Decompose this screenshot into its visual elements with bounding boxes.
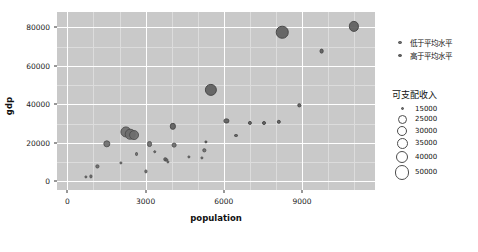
size-legend-item[interactable]: 50000 xyxy=(392,165,476,181)
gridline-vertical-minor xyxy=(198,12,199,190)
gridline-horizontal-minor xyxy=(57,124,375,125)
y-tick-label: 60000 xyxy=(26,61,50,70)
gridline-vertical-minor xyxy=(93,12,94,190)
x-tick-label: 3000 xyxy=(136,197,155,206)
data-point xyxy=(147,141,153,147)
y-tick-label: 0 xyxy=(45,177,50,186)
size-legend-circle xyxy=(401,107,404,110)
y-tick-label: 80000 xyxy=(26,23,50,32)
size-legend-label: 15000 xyxy=(415,105,437,113)
size-legend-circle xyxy=(397,138,408,149)
data-point xyxy=(262,121,266,125)
legend-marker-icon xyxy=(392,54,408,58)
gridline-vertical xyxy=(146,12,147,190)
gridline-vertical xyxy=(302,12,303,190)
size-legend-item[interactable]: 30000 xyxy=(392,125,476,136)
gridline-horizontal-minor xyxy=(57,162,375,163)
gridline-vertical-minor xyxy=(276,12,277,190)
color-legend-label: 低于平均水平 xyxy=(410,37,452,48)
data-point xyxy=(187,156,190,159)
size-legend-circle-icon xyxy=(392,114,412,124)
data-point xyxy=(89,175,92,178)
x-tick-mark xyxy=(145,190,146,193)
gridline-horizontal xyxy=(57,181,375,182)
data-point xyxy=(135,152,139,156)
x-tick-label: 6000 xyxy=(214,197,233,206)
gridline-vertical-minor xyxy=(354,12,355,190)
x-tick-mark xyxy=(223,190,224,193)
legend-marker-icon xyxy=(392,41,408,45)
legend-dot xyxy=(398,54,402,58)
legend-dot xyxy=(398,41,402,45)
gridline-horizontal xyxy=(57,66,375,67)
data-point xyxy=(103,140,110,147)
color-legend: 低于平均水平高于平均水平 xyxy=(392,36,476,62)
size-legend-circle-icon xyxy=(392,137,412,149)
color-legend-item[interactable]: 高于平均水平 xyxy=(392,49,476,62)
size-legend-rows: 150002500030000350004000050000 xyxy=(392,104,476,180)
x-tick-label: 9000 xyxy=(292,197,311,206)
data-point xyxy=(203,149,206,152)
data-point xyxy=(349,21,359,31)
data-point xyxy=(319,49,324,54)
data-point xyxy=(298,104,301,107)
size-legend-circle xyxy=(396,151,409,164)
size-legend-title: 可支配收入 xyxy=(392,88,476,101)
y-axis-label: gdp xyxy=(4,97,14,115)
data-point xyxy=(172,143,177,148)
gridline-vertical-minor xyxy=(250,12,251,190)
gridline-vertical xyxy=(224,12,225,190)
data-point xyxy=(144,170,147,173)
data-point xyxy=(234,134,238,138)
size-legend-label: 25000 xyxy=(415,115,437,123)
plot-area xyxy=(57,12,375,190)
y-tick-mark xyxy=(54,104,57,105)
gridline-vertical-minor xyxy=(172,12,173,190)
data-point xyxy=(170,123,176,129)
size-legend: 可支配收入 150002500030000350004000050000 xyxy=(392,88,476,181)
size-legend-label: 40000 xyxy=(415,153,437,161)
data-point xyxy=(153,150,157,154)
y-tick-mark xyxy=(54,27,57,28)
gridline-vertical-minor xyxy=(328,12,329,190)
x-tick-mark xyxy=(302,190,303,193)
y-tick-label: 40000 xyxy=(26,100,50,109)
size-legend-circle-icon xyxy=(392,104,412,113)
y-tick-mark xyxy=(54,181,57,182)
x-axis-label: population xyxy=(57,213,375,223)
size-legend-circle xyxy=(398,115,407,124)
size-legend-circle-icon xyxy=(392,165,412,181)
data-point xyxy=(96,165,99,168)
gridline-horizontal-minor xyxy=(57,47,375,48)
size-legend-item[interactable]: 40000 xyxy=(392,150,476,164)
data-point xyxy=(119,161,122,164)
y-tick-label: 20000 xyxy=(26,138,50,147)
size-legend-item[interactable]: 25000 xyxy=(392,114,476,124)
x-tick-label: 0 xyxy=(65,197,70,206)
color-legend-label: 高于平均水平 xyxy=(410,50,452,61)
size-legend-circle xyxy=(397,126,407,136)
gridline-vertical xyxy=(67,12,68,190)
size-legend-item[interactable]: 35000 xyxy=(392,137,476,149)
size-legend-label: 50000 xyxy=(415,168,437,176)
data-point xyxy=(205,84,217,96)
data-point xyxy=(200,156,203,159)
size-legend-circle-icon xyxy=(392,150,412,164)
gridline-horizontal xyxy=(57,27,375,28)
data-point xyxy=(276,26,289,39)
gridline-horizontal xyxy=(57,104,375,105)
data-point xyxy=(84,175,87,178)
y-tick-mark xyxy=(54,142,57,143)
color-legend-item[interactable]: 低于平均水平 xyxy=(392,36,476,49)
data-point xyxy=(129,130,139,140)
size-legend-label: 35000 xyxy=(415,139,437,147)
size-legend-circle-icon xyxy=(392,125,412,136)
x-tick-mark xyxy=(67,190,68,193)
size-legend-circle xyxy=(395,165,410,180)
size-legend-item[interactable]: 15000 xyxy=(392,104,476,113)
chart-figure: 020000400006000080000 0300060009000 popu… xyxy=(0,0,478,252)
size-legend-label: 30000 xyxy=(415,127,437,135)
y-tick-mark xyxy=(54,65,57,66)
gridline-horizontal-minor xyxy=(57,85,375,86)
